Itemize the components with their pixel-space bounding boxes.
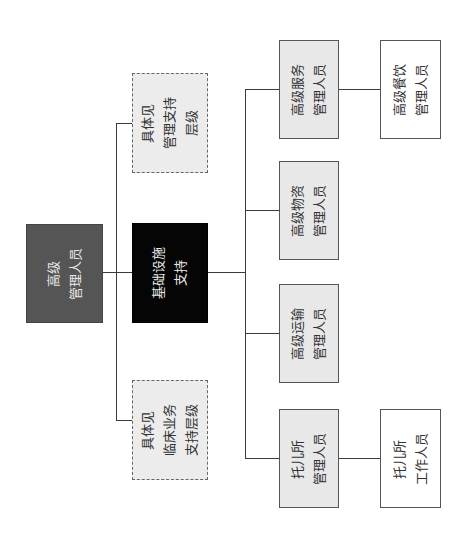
node-nursery-staff[interactable]: 托儿所 工作人员 — [380, 409, 441, 508]
node-label-line: 具体见 — [137, 404, 159, 456]
node-label-line: 管理人员 — [309, 433, 331, 485]
node-infrastructure-support[interactable]: 基础设施 支持 — [132, 223, 208, 323]
node-label-line: 高级运输 — [287, 308, 309, 360]
connector-to-service — [245, 89, 280, 90]
node-label-line: 管理人员 — [411, 64, 433, 116]
node-label-line: 高级服务 — [287, 64, 309, 116]
node-label-line: 高级物资 — [287, 185, 309, 237]
node-label-line: 管理人员 — [65, 248, 87, 300]
connector-nursery-to-staff — [338, 458, 381, 459]
node-clinical-support-level[interactable]: 具体见 临床业务 支持层级 — [132, 380, 208, 480]
connector-service-to-catering — [338, 89, 381, 90]
node-label-line: 管理人员 — [309, 308, 331, 360]
node-label-line: 支持 — [170, 247, 192, 299]
node-senior-service-manager[interactable]: 高级服务 管理人员 — [279, 40, 339, 139]
node-label-line: 支持层级 — [181, 404, 203, 456]
node-label-line: 高级 — [43, 248, 65, 300]
node-senior-transport-manager[interactable]: 高级运输 管理人员 — [279, 284, 339, 383]
connector-to-nursery — [245, 458, 280, 459]
connector-to-transport — [245, 333, 280, 334]
node-label-line: 层级 — [181, 97, 203, 149]
node-label-line: 管理人员 — [309, 64, 331, 116]
node-label-line: 具体见 — [137, 97, 159, 149]
connector-infra-to-right-trunk — [207, 272, 245, 273]
connector-to-materials — [245, 210, 280, 211]
connector-root-to-trunk — [102, 272, 116, 273]
node-senior-management[interactable]: 高级 管理人员 — [26, 224, 103, 323]
node-label-line: 临床业务 — [159, 404, 181, 456]
node-label-line: 管理人员 — [309, 185, 331, 237]
node-label-line: 基础设施 — [148, 247, 170, 299]
node-label-line: 高级餐饮 — [389, 64, 411, 116]
org-chart: 高级 管理人员 基础设施 支持 具体见 管理支持 层级 具体见 临床业务 支持层… — [0, 0, 472, 536]
node-label-line: 管理支持 — [159, 97, 181, 149]
node-senior-catering-manager[interactable]: 高级餐饮 管理人员 — [380, 40, 441, 139]
node-label-line: 托儿所 — [389, 433, 411, 485]
node-label-line: 托儿所 — [287, 433, 309, 485]
connector-trunk-to-infra — [116, 272, 132, 273]
node-label-line: 工作人员 — [411, 433, 433, 485]
connector-right-trunk — [245, 89, 246, 458]
node-senior-materials-manager[interactable]: 高级物资 管理人员 — [279, 161, 339, 260]
connector-to-clinical-support — [116, 420, 133, 421]
connector-to-mgmt-support — [116, 123, 133, 124]
node-management-support-level[interactable]: 具体见 管理支持 层级 — [132, 73, 208, 173]
node-nursery-manager[interactable]: 托儿所 管理人员 — [279, 409, 339, 508]
